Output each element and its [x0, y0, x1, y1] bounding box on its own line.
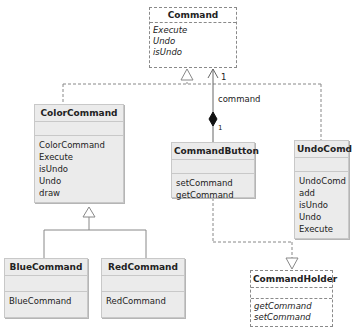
- multiplicity-top: 1: [221, 72, 226, 82]
- operation: ColorCommand: [39, 139, 119, 151]
- operation: Undo: [299, 211, 344, 223]
- realization-arrowhead-holder: [286, 258, 298, 269]
- operation: Execute: [153, 25, 233, 36]
- operation: getCommand: [254, 301, 329, 312]
- association-role-label: command: [218, 94, 260, 104]
- class-color-command[interactable]: ColorCommand ColorCommand Execute isUndo…: [34, 104, 124, 203]
- operation: Execute: [39, 151, 119, 163]
- operations-list: UndoComd add isUndo Undo Execute: [295, 172, 348, 238]
- class-red-command[interactable]: RedCommand RedCommand: [101, 258, 185, 318]
- operations-list: getCommand setCommand: [251, 299, 332, 325]
- operation: UndoComd: [299, 175, 344, 187]
- attributes-compartment: [102, 276, 184, 292]
- class-name: ColorCommand: [35, 105, 123, 122]
- realization-arrowhead: [181, 69, 193, 80]
- attributes-compartment: [172, 160, 254, 174]
- operation: Undo: [39, 175, 119, 187]
- class-name: RedCommand: [102, 259, 184, 276]
- class-blue-command[interactable]: BlueCommand BlueCommand: [4, 258, 88, 318]
- class-command-holder[interactable]: CommandHolder getCommand setCommand: [250, 270, 333, 327]
- multiplicity-bottom: 1: [218, 124, 222, 132]
- class-name: CommandButton: [172, 143, 254, 160]
- operation: isUndo: [39, 163, 119, 175]
- operation: add: [299, 187, 344, 199]
- class-command[interactable]: Command Execute Undo isUndo: [149, 7, 237, 68]
- class-command-button[interactable]: CommandButton setCommand getCommand: [171, 142, 255, 198]
- operations-list: ColorCommand Execute isUndo Undo draw: [35, 136, 123, 202]
- operations-list: Execute Undo isUndo: [150, 23, 236, 60]
- operations-list: setCommand getCommand: [172, 174, 254, 204]
- generalization-arrowhead: [83, 207, 95, 217]
- operation: Undo: [153, 36, 233, 47]
- class-name: CommandHolder: [251, 271, 332, 288]
- operations-list: BlueCommand: [5, 292, 87, 310]
- operation: draw: [39, 187, 119, 199]
- operation: setCommand: [176, 177, 250, 189]
- operation: getCommand: [176, 189, 250, 201]
- attributes-compartment: [5, 276, 87, 292]
- class-name: Command: [150, 8, 236, 23]
- operation: isUndo: [299, 199, 344, 211]
- attributes-compartment: [35, 122, 123, 136]
- class-undo-comd[interactable]: UndoComd UndoComd add isUndo Undo Execut…: [294, 140, 349, 239]
- attributes-compartment: [295, 158, 348, 172]
- operation: Execute: [299, 223, 344, 235]
- operation: RedCommand: [106, 295, 180, 307]
- class-name: BlueCommand: [5, 259, 87, 276]
- attributes-compartment: [251, 288, 332, 299]
- class-name: UndoComd: [295, 141, 348, 158]
- composition-diamond: [209, 112, 217, 126]
- operation: BlueCommand: [9, 295, 83, 307]
- operation: setCommand: [254, 312, 329, 323]
- operations-list: RedCommand: [102, 292, 184, 310]
- operation: isUndo: [153, 47, 233, 58]
